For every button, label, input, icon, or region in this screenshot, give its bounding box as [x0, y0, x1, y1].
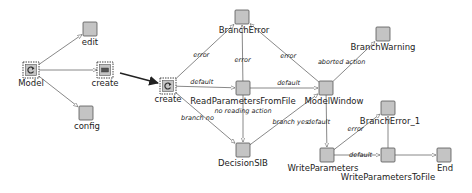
- node-model-window[interactable]: ModelWindow: [304, 81, 363, 106]
- edge-label: default: [277, 79, 300, 87]
- node-box: [26, 65, 37, 76]
- edge-label: branch no: [181, 114, 214, 122]
- zoom-arrow: [120, 73, 158, 83]
- edge-create_main-to-read_params[interactable]: [175, 86, 235, 88]
- window-icon: [102, 68, 109, 72]
- edge-label: error: [235, 56, 252, 64]
- nodes-layer: ModeleditcreateconfigcreateBranchErrorRe…: [18, 10, 453, 182]
- node-box: [437, 148, 451, 162]
- edge-label: error: [280, 52, 297, 60]
- node-box: [320, 148, 334, 162]
- node-box: [236, 81, 250, 95]
- node-label: create: [155, 94, 182, 104]
- edge-label: no reading action: [214, 107, 271, 115]
- edge-label: branch yes: [272, 118, 309, 126]
- node-decision-sib[interactable]: DecisionSIB: [218, 143, 268, 168]
- node-box: [319, 81, 333, 95]
- node-label: Model: [18, 78, 44, 88]
- edge-label: error: [348, 125, 365, 133]
- edge-model-to-config[interactable]: [38, 75, 78, 106]
- node-box: [163, 81, 174, 92]
- node-box: [79, 106, 93, 120]
- edge-label: default: [349, 151, 372, 159]
- node-box: [381, 101, 395, 115]
- node-label: WriteParametersToFile: [341, 172, 435, 182]
- node-label: DecisionSIB: [218, 158, 268, 168]
- node-label: edit: [82, 37, 99, 47]
- edge-label: default: [307, 118, 330, 126]
- node-box: [83, 22, 97, 36]
- node-model[interactable]: Model: [18, 62, 44, 88]
- node-label: config: [74, 121, 100, 131]
- node-box: [235, 10, 249, 24]
- node-box: [236, 143, 250, 157]
- node-box: [376, 27, 390, 41]
- node-create-main[interactable]: create: [155, 78, 182, 104]
- node-create-left[interactable]: create: [92, 62, 119, 88]
- edge-label: error: [193, 51, 210, 59]
- node-end[interactable]: End: [437, 148, 453, 173]
- process-model-diagram: errorerrorerrordefaultdefaultno reading …: [0, 0, 472, 193]
- node-label: ModelWindow: [304, 96, 363, 106]
- node-branch-error[interactable]: BranchError: [219, 10, 270, 35]
- node-branch-error-1[interactable]: BranchError_1: [360, 101, 420, 126]
- node-label: BranchError_1: [360, 116, 420, 126]
- node-label: BranchWarning: [351, 42, 416, 52]
- node-label: BranchError: [219, 25, 270, 35]
- node-config[interactable]: config: [74, 106, 100, 131]
- edge-label: default: [190, 78, 213, 86]
- edge-label: aborted action: [318, 58, 366, 66]
- edge-model-to-edit[interactable]: [38, 35, 82, 66]
- node-box: [381, 148, 395, 162]
- node-label: End: [437, 163, 453, 173]
- node-branch-warning[interactable]: BranchWarning: [351, 27, 416, 52]
- node-label: create: [92, 78, 119, 88]
- node-label: ReadParametersFromFile: [190, 96, 295, 106]
- node-edit[interactable]: edit: [82, 22, 99, 47]
